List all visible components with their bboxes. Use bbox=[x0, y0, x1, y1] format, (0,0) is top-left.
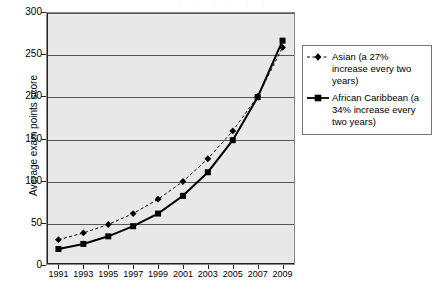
data-point-asian-1999 bbox=[155, 196, 162, 203]
data-point-asian-2001 bbox=[180, 178, 187, 185]
y-tick-label-250: 250 bbox=[8, 49, 42, 59]
y-tick-label-50: 50 bbox=[8, 218, 42, 228]
legend-label-african-caribbean: African Caribbean (a 34% increase every … bbox=[332, 92, 427, 128]
legend-label-ac-line1: African Caribbean bbox=[332, 92, 408, 103]
data-point-african-caribbean-2005 bbox=[230, 137, 236, 143]
data-point-african-caribbean-2009 bbox=[280, 38, 286, 44]
legend-label-asian: Asian (a 27% increase every two years) bbox=[332, 51, 427, 87]
x-tick-mark-1997 bbox=[133, 265, 134, 269]
y-tick-label-200: 200 bbox=[8, 91, 42, 101]
data-point-african-caribbean-1995 bbox=[105, 233, 111, 239]
legend-key-african-caribbean-solid-square bbox=[307, 92, 329, 104]
data-point-african-caribbean-2007 bbox=[255, 94, 261, 100]
x-tick-mark-2005 bbox=[233, 265, 234, 269]
x-tick-mark-2001 bbox=[183, 265, 184, 269]
x-tick-mark-1999 bbox=[158, 265, 159, 269]
legend-item-asian[interactable]: Asian (a 27% increase every two years) bbox=[307, 51, 427, 87]
data-point-asian-1995 bbox=[105, 221, 112, 228]
data-point-asian-2003 bbox=[204, 155, 211, 162]
data-point-african-caribbean-2001 bbox=[180, 193, 186, 199]
y-tick-label-100: 100 bbox=[8, 176, 42, 186]
data-point-african-caribbean-1997 bbox=[130, 223, 136, 229]
data-point-asian-1997 bbox=[130, 210, 137, 217]
chart-figure: Average exam points score 05010015020025… bbox=[0, 0, 438, 290]
legend-key-asian-dashed-diamond bbox=[307, 51, 329, 63]
y-tick-mark-0 bbox=[41, 265, 46, 266]
data-series-layer bbox=[46, 12, 295, 265]
x-tick-mark-1993 bbox=[83, 265, 84, 269]
x-tick-mark-1995 bbox=[108, 265, 109, 269]
legend-label-ac-line3: two years) bbox=[332, 116, 376, 127]
data-point-asian-1991 bbox=[55, 236, 62, 243]
y-tick-label-0: 0 bbox=[8, 260, 42, 270]
data-point-asian-1993 bbox=[80, 230, 87, 237]
data-point-african-caribbean-1991 bbox=[55, 246, 61, 252]
x-tick-mark-1991 bbox=[58, 265, 59, 269]
y-tick-label-150: 150 bbox=[8, 134, 42, 144]
legend-item-african-caribbean[interactable]: African Caribbean (a 34% increase every … bbox=[307, 92, 427, 128]
series-line-asian bbox=[58, 47, 282, 239]
series-line-african-caribbean bbox=[58, 41, 282, 249]
data-point-african-caribbean-2003 bbox=[205, 169, 211, 175]
x-tick-mark-2009 bbox=[283, 265, 284, 269]
x-tick-label-2009: 2009 bbox=[266, 269, 300, 279]
data-point-african-caribbean-1999 bbox=[155, 211, 161, 217]
x-tick-mark-2007 bbox=[258, 265, 259, 269]
data-point-african-caribbean-1993 bbox=[80, 241, 86, 247]
chart-legend: Asian (a 27% increase every two years) A… bbox=[302, 45, 432, 135]
y-tick-label-300: 300 bbox=[8, 7, 42, 17]
x-tick-mark-2003 bbox=[208, 265, 209, 269]
